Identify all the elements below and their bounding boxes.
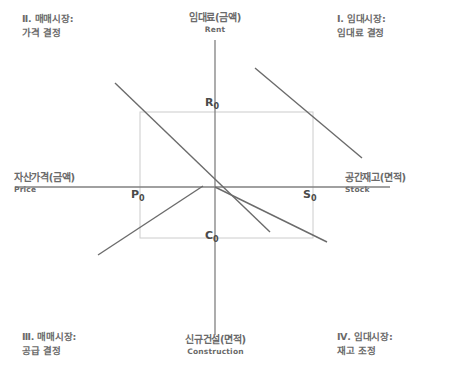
- axis-label-stock-ko: 공간재고(면적): [345, 171, 440, 184]
- quadrant-4-label: Ⅳ. 임대시장: 재고 조정: [337, 330, 393, 358]
- axis-label-stock-en: Stock: [345, 184, 440, 195]
- quadrant-1-label: Ⅰ. 임대시장: 임대료 결정: [337, 12, 386, 40]
- axis-label-construction-en: Construction: [163, 346, 268, 357]
- point-label-p0: P0: [131, 188, 145, 203]
- quadrant-3-label: Ⅲ. 매매시장: 공급 결정: [22, 330, 76, 358]
- axis-label-price: 자산가격(금액) Price: [14, 171, 94, 195]
- axis-label-rent-ko: 임대료(금액): [165, 11, 265, 24]
- axis-label-construction-ko: 신규건설(면적): [163, 333, 268, 346]
- diagram-canvas: Ⅱ. 매매시장: 가격 결정 Ⅰ. 임대시장: 임대료 결정 Ⅲ. 매매시장: …: [0, 0, 453, 375]
- axis-label-price-ko: 자산가격(금액): [14, 171, 94, 184]
- curve-q3-construction-supply: [98, 186, 203, 255]
- axis-label-price-en: Price: [14, 184, 94, 195]
- equilibrium-box: [140, 112, 313, 238]
- quadrant-2-label: Ⅱ. 매매시장: 가격 결정: [22, 12, 73, 40]
- point-label-p0-sub: 0: [139, 194, 145, 203]
- point-label-p0-base: P: [131, 188, 139, 201]
- point-label-c0-sub: 0: [213, 235, 219, 244]
- point-label-r0-sub: 0: [213, 102, 219, 111]
- point-label-c0-base: C: [205, 229, 213, 242]
- point-label-s0-sub: 0: [311, 194, 317, 203]
- curve-q1-rent-demand: [255, 68, 362, 158]
- point-label-s0-base: S: [303, 188, 311, 201]
- point-label-c0: C0: [205, 229, 219, 244]
- axis-label-construction: 신규건설(면적) Construction: [163, 333, 268, 357]
- point-label-r0: R0: [205, 96, 219, 111]
- curve-q2-asset-valuation: [115, 83, 270, 232]
- axis-label-rent: 임대료(금액) Rent: [165, 11, 265, 35]
- axis-label-rent-en: Rent: [165, 24, 265, 35]
- point-label-s0: S0: [303, 188, 317, 203]
- axis-label-stock: 공간재고(면적) Stock: [345, 171, 440, 195]
